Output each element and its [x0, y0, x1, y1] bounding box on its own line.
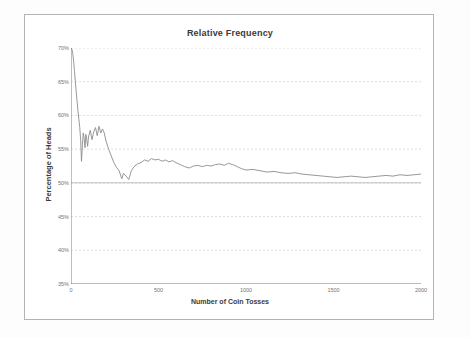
- y-axis-tick-label: 70%: [47, 45, 69, 51]
- x-axis-tick-label: 0: [56, 287, 86, 293]
- screenshot-page: Relative Frequency Percentage of Heads 7…: [0, 0, 470, 338]
- x-axis-tick-label: 1500: [319, 287, 349, 293]
- x-axis-tick-label: 1000: [231, 287, 261, 293]
- y-axis-tick-label: 55%: [47, 146, 69, 152]
- x-axis-tick-label: 2000: [406, 287, 436, 293]
- x-axis-tick-label: 500: [144, 287, 174, 293]
- data-series-group: [71, 48, 421, 179]
- gridlines-group: [71, 48, 421, 284]
- y-axis-tick-label: 65%: [47, 79, 69, 85]
- plot-svg: [71, 48, 421, 284]
- chart-figure-frame: Relative Frequency Percentage of Heads 7…: [24, 14, 434, 320]
- y-axis-tick-labels: 70%65%60%55%50%45%40%35%: [43, 48, 69, 284]
- y-axis-tick-label: 60%: [47, 112, 69, 118]
- data-series-line-0: [71, 48, 421, 179]
- y-axis-tick-label: 50%: [47, 180, 69, 186]
- x-axis-tick-labels: 0500100015002000: [71, 287, 421, 297]
- plot-area: [71, 48, 421, 284]
- x-axis-title: Number of Coin Tosses: [25, 298, 435, 305]
- y-axis-tick-label: 45%: [47, 214, 69, 220]
- chart-title: Relative Frequency: [25, 28, 435, 38]
- axis-lines-group: [71, 48, 421, 284]
- y-axis-tick-label: 40%: [47, 247, 69, 253]
